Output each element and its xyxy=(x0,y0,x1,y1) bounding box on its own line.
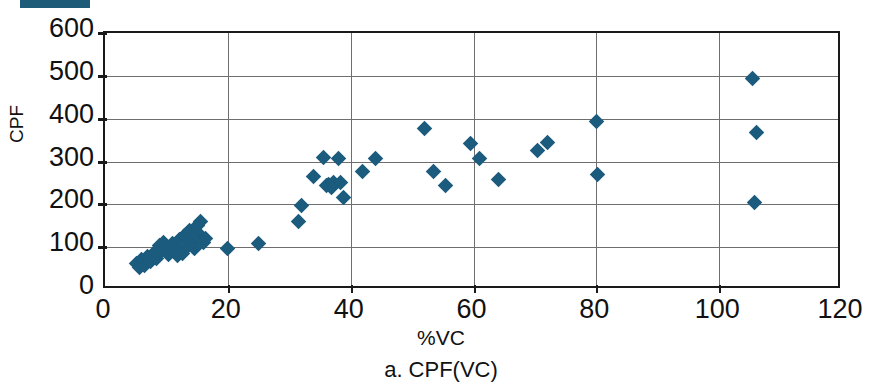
y-tick-mark xyxy=(98,246,107,249)
data-point-marker xyxy=(315,150,331,166)
data-point-marker xyxy=(306,169,322,185)
data-point-marker xyxy=(490,172,506,188)
x-tick-label: 60 xyxy=(422,294,522,325)
clipped-legend-bar xyxy=(20,0,90,8)
data-point-marker xyxy=(747,194,763,210)
y-tick-mark xyxy=(98,32,107,35)
x-tick-mark xyxy=(228,285,230,293)
data-point-marker xyxy=(251,236,267,252)
y-axis-title: CPF xyxy=(6,105,28,143)
data-point-marker xyxy=(336,190,352,206)
data-point-marker xyxy=(590,167,606,183)
data-point-marker xyxy=(589,114,605,130)
data-point-marker xyxy=(417,121,433,137)
x-tick-label: 20 xyxy=(176,294,276,325)
gridline-horizontal xyxy=(105,119,838,120)
x-tick-label: 100 xyxy=(667,294,767,325)
data-point-marker xyxy=(220,241,236,257)
y-tick-mark xyxy=(98,118,107,121)
data-point-marker xyxy=(438,178,454,194)
y-tick-label: 400 xyxy=(49,99,94,130)
figure-caption: a. CPF(VC) xyxy=(0,357,882,383)
y-tick-mark xyxy=(98,203,107,206)
x-tick-mark xyxy=(719,285,721,293)
data-point-marker xyxy=(355,164,371,180)
y-tick-label: 100 xyxy=(49,227,94,258)
x-tick-label: 40 xyxy=(299,294,399,325)
data-point-marker xyxy=(463,136,479,152)
x-tick-label: 80 xyxy=(544,294,644,325)
gridline-vertical xyxy=(719,33,720,286)
y-tick-mark xyxy=(98,161,107,164)
plot-area xyxy=(103,31,840,288)
x-tick-label: 0 xyxy=(53,294,153,325)
data-point-marker xyxy=(367,151,383,167)
gridline-horizontal xyxy=(105,162,838,163)
y-tick-label: 600 xyxy=(49,13,94,44)
x-tick-mark xyxy=(351,285,353,293)
gridline-vertical xyxy=(351,33,352,286)
y-tick-label: 300 xyxy=(49,142,94,173)
scatter-figure: 6005004003002001000 020406080100120 CPF … xyxy=(0,0,882,389)
x-tick-label: 120 xyxy=(790,294,882,325)
y-tick-label: 200 xyxy=(49,184,94,215)
data-point-marker xyxy=(745,71,761,87)
data-point-marker xyxy=(426,164,442,180)
gridline-horizontal xyxy=(105,204,838,205)
data-point-marker xyxy=(291,214,307,230)
x-tick-mark xyxy=(596,285,598,293)
gridline-horizontal xyxy=(105,247,838,248)
x-axis-title: %VC xyxy=(0,326,882,350)
gridline-vertical xyxy=(596,33,597,286)
x-tick-mark xyxy=(474,285,476,293)
y-tick-mark xyxy=(98,75,107,78)
y-tick-label: 500 xyxy=(49,56,94,87)
data-point-marker xyxy=(331,151,347,167)
gridline-horizontal xyxy=(105,76,838,77)
data-point-marker xyxy=(748,125,764,141)
data-point-marker xyxy=(294,197,310,213)
